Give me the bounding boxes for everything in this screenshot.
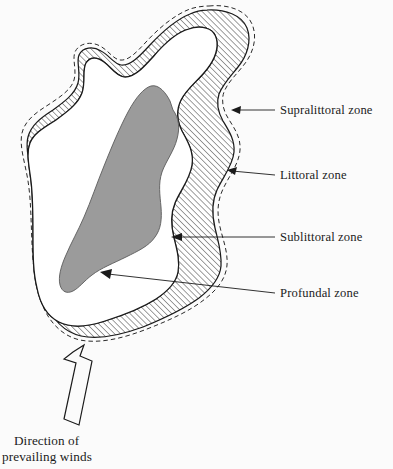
lake-zonation-figure: Supralittoral zone Littoral zone Sublitt…	[0, 0, 393, 469]
sublittoral-zone-label: Sublittoral zone	[280, 230, 363, 244]
supralittoral-zone-label: Supralittoral zone	[280, 103, 373, 117]
wind-direction-label-line2: prevailing winds	[2, 449, 92, 464]
profundal-zone-label: Profundal zone	[280, 286, 359, 300]
wind-direction-label-line1: Direction of	[14, 433, 80, 448]
littoral-zone-label: Littoral zone	[280, 168, 347, 182]
